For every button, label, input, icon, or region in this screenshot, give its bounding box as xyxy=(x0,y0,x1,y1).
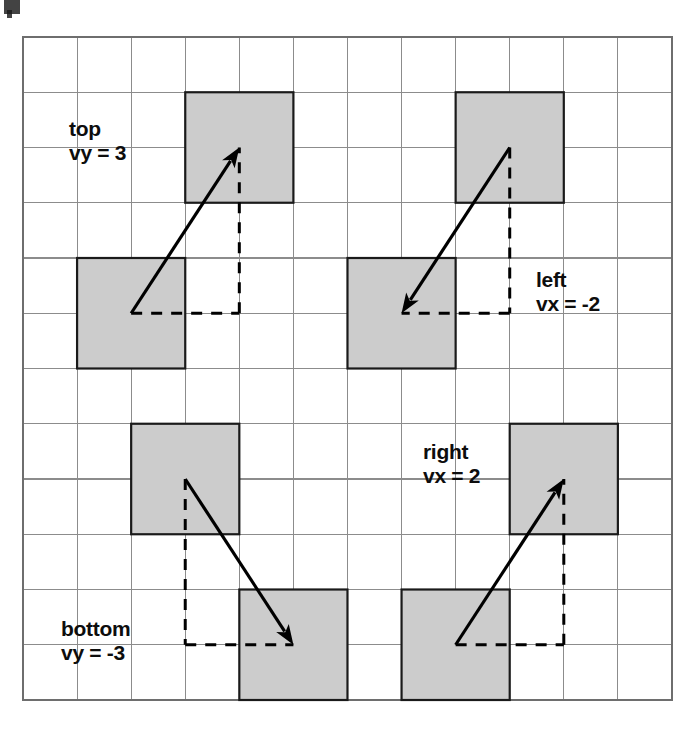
vector-label-value-left: vx = -2 xyxy=(536,292,600,315)
figure-canvas: topvy = 3leftvx = -2bottomvy = -3rightvx… xyxy=(0,0,696,729)
vector-label-value-right: vx = 2 xyxy=(423,464,480,487)
vector-label-value-top: vy = 3 xyxy=(69,141,126,164)
vector-label-bottom: bottomvy = -3 xyxy=(61,617,130,664)
vector-label-left: leftvx = -2 xyxy=(536,268,600,315)
vector-label-name-right: right xyxy=(423,440,468,463)
vector-grid-figure: topvy = 3leftvx = -2bottomvy = -3rightvx… xyxy=(0,0,696,729)
vector-label-name-bottom: bottom xyxy=(61,617,130,640)
vector-label-name-top: top xyxy=(69,117,101,140)
vector-label-right: rightvx = 2 xyxy=(423,440,480,487)
vector-label-name-left: left xyxy=(536,268,567,291)
vector-label-value-bottom: vy = -3 xyxy=(61,641,125,664)
vector-label-top: topvy = 3 xyxy=(69,117,126,164)
